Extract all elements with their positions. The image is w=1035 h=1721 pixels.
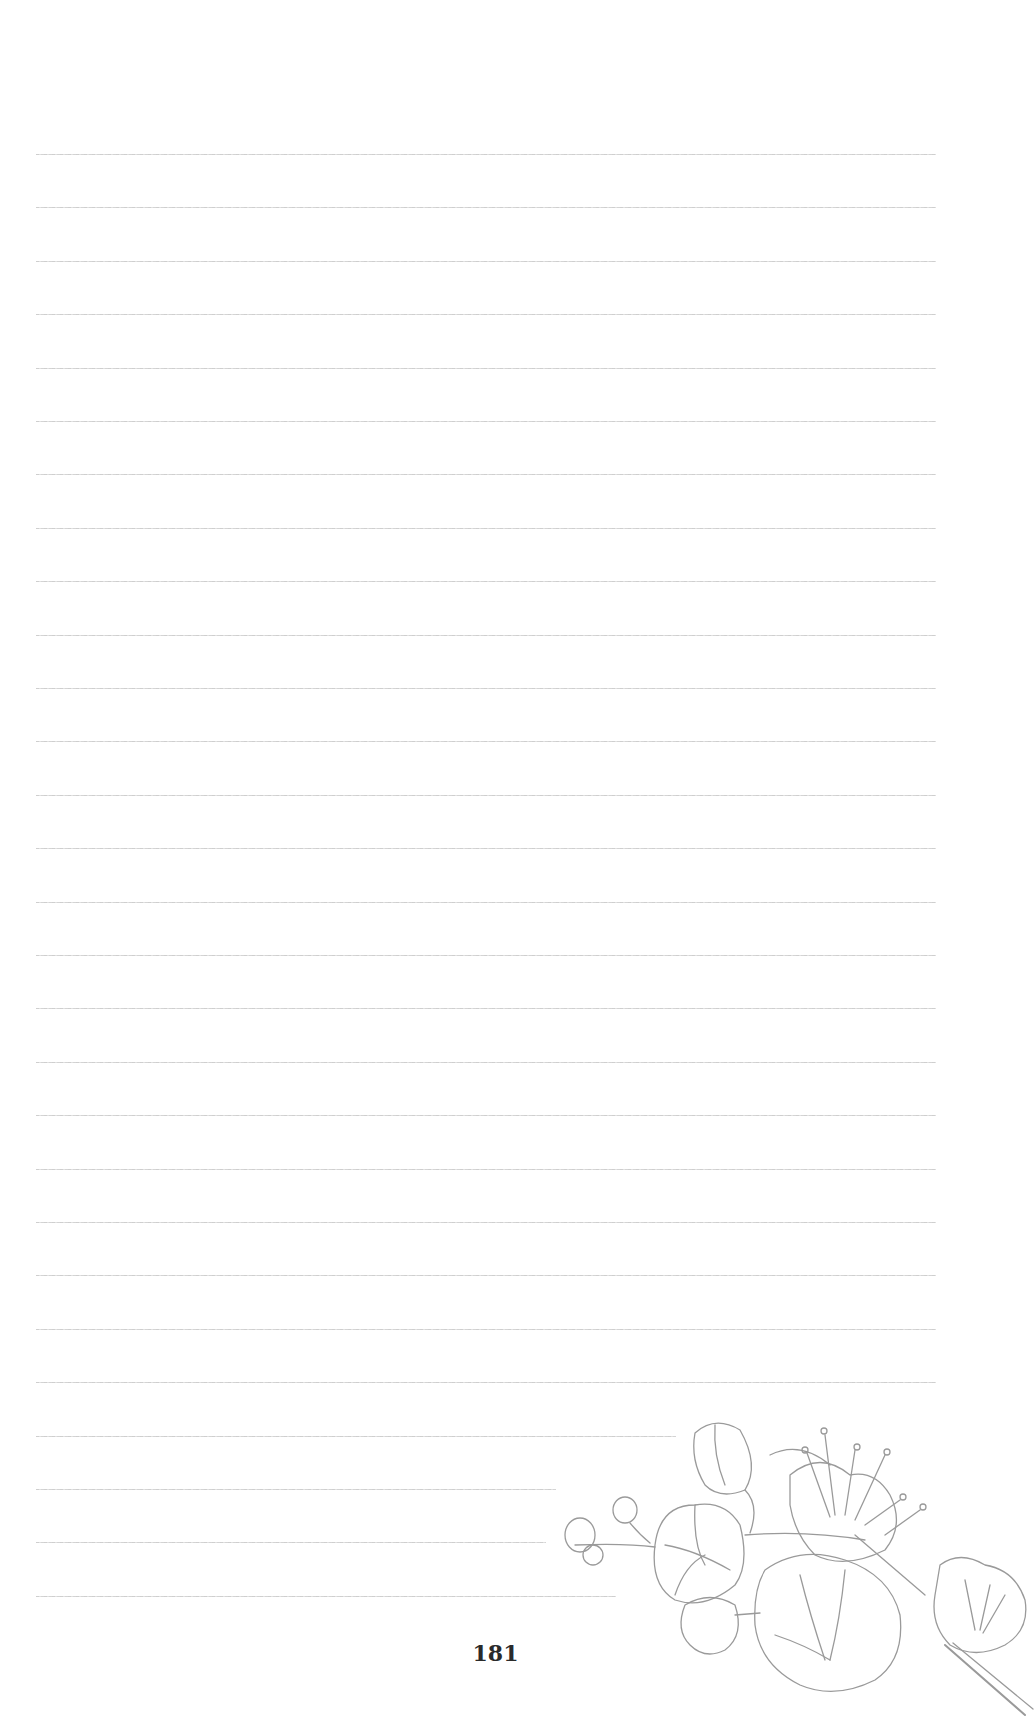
ruled-line [36,1489,556,1490]
page-number-text: 181 [473,1640,519,1666]
ruled-line [36,1222,936,1223]
ruled-line [36,955,936,956]
ruled-line [36,795,936,796]
ruled-line [36,207,936,208]
ruled-line [36,1062,936,1063]
ruled-line [36,1542,546,1543]
cherry-blossom-illustration [545,1395,1035,1721]
ruled-line [36,902,936,903]
ruled-line [36,1382,936,1383]
ruled-line [36,528,936,529]
page-number: 181 [0,1640,1035,1666]
ruled-line [36,474,936,475]
ruled-line [36,261,936,262]
ruled-line [36,581,936,582]
ruled-line [36,421,936,422]
ruled-line [36,688,936,689]
ruled-line [36,741,936,742]
ruled-line [36,1275,936,1276]
ruled-line [36,154,936,155]
ruled-line [36,1169,936,1170]
ruled-line [36,1329,936,1330]
ruled-line [36,1008,936,1009]
ruled-line [36,635,936,636]
ruled-line [36,314,936,315]
ruled-line [36,848,936,849]
ruled-line [36,1596,616,1597]
ruled-line [36,1115,936,1116]
ruled-line [36,368,936,369]
notebook-page: 181 [0,0,1035,1721]
